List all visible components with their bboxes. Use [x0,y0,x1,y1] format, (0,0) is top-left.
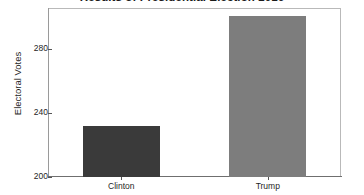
bar-chart: Results of Presidential Election 2016 El… [0,0,364,195]
y-tick-label: 200 [18,172,48,181]
bar-clinton [83,126,160,177]
y-tick: 280 [12,49,48,50]
y-tick-label: 280 [18,44,48,53]
x-tick-mark [121,177,122,180]
y-tick-mark [48,177,52,178]
y-axis-line [48,8,49,177]
y-tick: 200 [12,177,48,178]
y-tick-label: 240 [18,108,48,117]
bar-trump [229,16,306,177]
y-tick: 240 [12,113,48,114]
x-tick-mark [268,177,269,180]
x-tick-label: Clinton [81,181,161,191]
x-tick-label: Trump [228,181,308,191]
y-tick-mark [48,113,52,114]
y-tick-mark [48,49,52,50]
chart-title: Results of Presidential Election 2016 [0,0,364,3]
